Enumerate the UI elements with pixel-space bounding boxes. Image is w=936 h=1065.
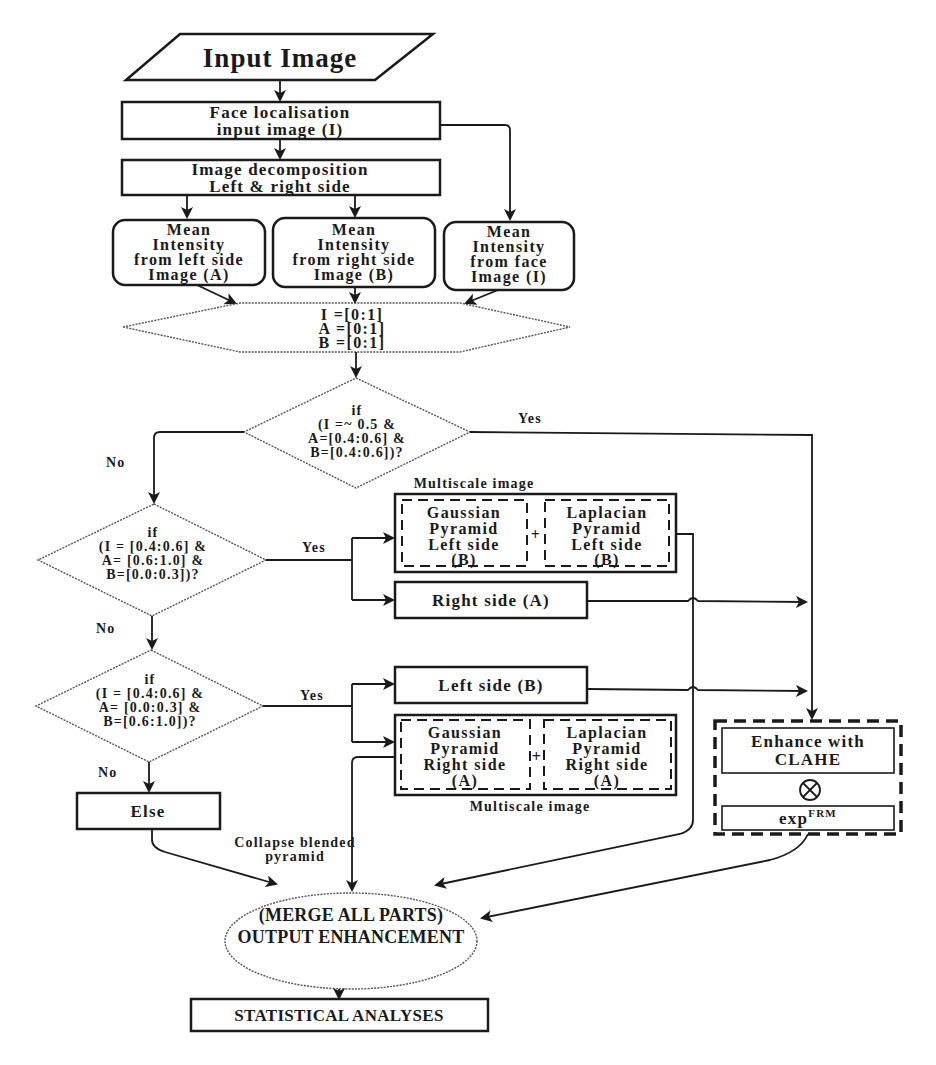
statistical-analyses-node: STATISTICAL ANALYSES — [191, 999, 488, 1031]
plus-top: + — [531, 526, 542, 543]
decision1-line4: B=[0.4:0.6])? — [310, 445, 404, 461]
decision2-yes-label: Yes — [302, 540, 326, 555]
multiscale-top-caption: Multiscale image — [414, 476, 535, 491]
range-b: B =[0:1] — [319, 334, 386, 351]
gaussian-top-line4: (B) — [451, 551, 477, 569]
merge-line2: OUTPUT ENHANCEMENT — [238, 927, 465, 947]
decomposition-line2: Left & right side — [209, 177, 351, 196]
gaussian-bottom-line1: Gaussian — [428, 724, 502, 741]
multiply-operator-icon — [800, 780, 820, 800]
multiscale-left-pyramid-node: Multiscale image Gaussian Pyramid Left s… — [395, 476, 676, 572]
decision3-no-label: No — [98, 765, 118, 780]
decision2-line3: A= [0.6:1.0] & — [102, 553, 205, 568]
left-side-b-label: Left side (B) — [438, 676, 543, 695]
decision2-line1: if — [148, 525, 159, 540]
multiscale-right-pyramid-node: Gaussian Pyramid Right side (A) + Laplac… — [395, 715, 676, 814]
else-label: Else — [130, 802, 165, 821]
exp-base: exp — [779, 809, 808, 828]
decision3-line1: if — [145, 672, 156, 687]
merge-output-node: (MERGE ALL PARTS) OUTPUT ENHANCEMENT — [225, 893, 477, 989]
gaussian-bottom-line4: (A) — [452, 772, 478, 790]
mean-face-line4: Image (I) — [471, 268, 547, 286]
laplacian-bottom-line4: (A) — [594, 772, 620, 790]
input-image-label: Input Image — [203, 43, 357, 73]
gaussian-top-line1: Gaussian — [427, 504, 501, 521]
decision3-line4: B=[0.6:1.0])? — [103, 714, 197, 730]
mean-intensity-face-node: Mean Intensity from face Image (I) — [444, 222, 574, 290]
decision-3-node: if (I = [0.4:0.6] & A= [0.0:0.3] & B=[0.… — [36, 650, 263, 762]
image-decomposition-node: Image decomposition Left & right side — [122, 160, 440, 196]
clahe-enhancement-node: Enhance with CLAHE expFRM — [715, 721, 901, 834]
clahe-line2: CLAHE — [775, 750, 841, 769]
mean-right-line4: Image (B) — [314, 266, 395, 284]
mean-intensity-right-node: Mean Intensity from right side Image (B) — [273, 218, 435, 287]
mean-left-line4: Image (A) — [148, 266, 229, 284]
decision1-line1: if — [352, 403, 363, 418]
decision-1-node: if (I =~ 0.5 & A=[0.4:0.6] & B=[0.4:0.6]… — [244, 378, 470, 488]
decision1-line3: A=[0.4:0.6] & — [308, 431, 406, 446]
multiscale-bottom-caption: Multiscale image — [470, 799, 591, 814]
decision1-yes-label: Yes — [518, 411, 542, 426]
mean-intensity-left-node: Mean Intensity from left side Image (A) — [113, 220, 265, 285]
collapse-blended-label: Collapse blended pyramid — [234, 835, 356, 864]
face-localisation-node: Face localisation input image (I) — [122, 102, 440, 139]
decision-2-node: if (I = [0.4:0.6] & A= [0.6:1.0] & B=[0.… — [38, 504, 266, 616]
laplacian-top-line4: (B) — [594, 551, 620, 569]
clahe-line1: Enhance with — [751, 732, 865, 751]
face-localisation-line2: input image (I) — [217, 120, 344, 139]
decision2-no-label: No — [96, 621, 116, 636]
right-side-a-node: Right side (A) — [395, 582, 587, 618]
ranges-hexagon-node: I =[0:1] A =[0:1] B =[0:1] — [123, 303, 570, 352]
else-node: Else — [77, 793, 220, 829]
collapse-line1: Collapse blended — [234, 835, 356, 850]
collapse-line2: pyramid — [265, 849, 325, 864]
input-image-node: Input Image — [126, 34, 433, 80]
decision2-line4: B=[0.0:0.3])? — [106, 567, 200, 583]
decision3-line3: A= [0.0:0.3] & — [99, 700, 202, 715]
plus-bottom: + — [532, 748, 543, 765]
decision3-yes-label: Yes — [300, 688, 324, 703]
decision1-no-label: No — [106, 455, 126, 470]
right-side-a-label: Right side (A) — [432, 591, 550, 610]
left-side-b-node: Left side (B) — [395, 667, 587, 703]
exp-superscript: FRM — [808, 807, 837, 819]
merge-line1: (MERGE ALL PARTS) — [259, 905, 443, 926]
statistical-label: STATISTICAL ANALYSES — [234, 1006, 443, 1025]
flowchart: Input Image Face localisation input imag… — [0, 0, 936, 1065]
